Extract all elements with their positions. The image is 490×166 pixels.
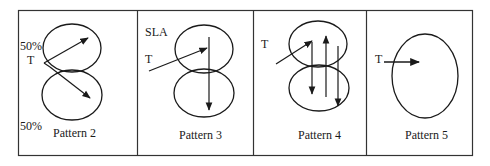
pattern-figure: 50% T 50% Pattern 2 SLA T Pattern 3 T Pa… xyxy=(0,0,490,166)
tracer-label: T xyxy=(261,37,269,51)
sla-label: SLA xyxy=(145,25,168,39)
panel-pattern-4: T Pattern 4 xyxy=(261,21,349,142)
panel-pattern-2: 50% T 50% Pattern 2 xyxy=(20,24,102,140)
arrow-oblique-icon xyxy=(276,41,312,64)
panel-caption: Pattern 4 xyxy=(298,128,341,142)
panel-caption: Pattern 5 xyxy=(405,128,448,142)
panel-caption: Pattern 3 xyxy=(179,128,222,142)
upper-percentage-label: 50% xyxy=(20,39,42,53)
lower-lobe xyxy=(174,69,234,117)
tracer-label: T xyxy=(145,52,153,66)
panel-caption: Pattern 2 xyxy=(53,126,96,140)
arrow-oblique-icon xyxy=(149,48,207,71)
arrow-upper-right-icon xyxy=(44,38,88,63)
tracer-label: T xyxy=(375,52,383,66)
tracer-label: T xyxy=(27,53,35,67)
single-lobe xyxy=(392,34,458,118)
lower-lobe xyxy=(289,65,349,111)
panel-pattern-5: T Pattern 5 xyxy=(375,34,458,142)
upper-lobe xyxy=(43,24,101,72)
lower-percentage-label: 50% xyxy=(20,119,42,133)
panel-pattern-3: SLA T Pattern 3 xyxy=(145,25,234,142)
lower-lobe xyxy=(42,70,102,120)
